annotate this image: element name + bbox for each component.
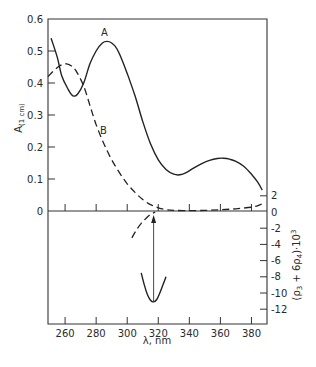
- curve-cd-dashed: [132, 212, 155, 238]
- curves: [48, 38, 265, 302]
- y-right-tick-label: -10: [271, 288, 287, 299]
- plot-border: [48, 19, 267, 324]
- arrow-head-icon: [151, 215, 156, 223]
- svg-text:A(1 cm): A(1 cm): [13, 103, 26, 133]
- x-tick-label: 340: [180, 328, 199, 339]
- y-right-tick-label: -6: [271, 255, 281, 266]
- x-tick-label: 360: [211, 328, 230, 339]
- y-right-label-part: )·10: [291, 234, 302, 254]
- x-tick-label: 280: [87, 328, 106, 339]
- x-tick-label: 300: [118, 328, 137, 339]
- annotations: [151, 215, 156, 301]
- y-left-tick-label: 0: [37, 206, 43, 217]
- curve-b-label: B: [100, 125, 107, 136]
- y-left-tick-label: 0.1: [27, 174, 43, 185]
- y-right-tick-label: -8: [271, 271, 281, 282]
- x-tick-label: 260: [56, 328, 75, 339]
- y-left-label-sub: (1 cm): [18, 103, 26, 126]
- y-right-tick-label: -12: [271, 304, 287, 315]
- y-right-tick-label: -4: [271, 239, 281, 250]
- y-right-label-part: (ρ: [291, 290, 302, 300]
- y-axis-right-label: (ρ3 + 6ρ4)·103: [290, 230, 304, 301]
- absorption-cd-chart: 00.10.20.30.40.50.620-2-4-6-8-10-1226028…: [0, 0, 316, 367]
- curve-a-label: A: [101, 27, 108, 38]
- y-right-label-sup: 3: [290, 230, 298, 234]
- x-axis-label: λ, nm: [143, 335, 171, 346]
- plot-frame: [48, 19, 267, 324]
- y-left-tick-label: 0.6: [27, 14, 43, 25]
- y-right-tick-label: 2: [271, 190, 277, 201]
- y-left-tick-label: 0.4: [27, 78, 43, 89]
- y-left-tick-label: 0.2: [27, 142, 43, 153]
- curve-b: [48, 64, 265, 211]
- y-right-tick-label: 0: [271, 207, 277, 218]
- axis-ticks: 00.10.20.30.40.50.620-2-4-6-8-10-1226028…: [27, 14, 287, 340]
- y-left-tick-label: 0.5: [27, 46, 43, 57]
- curve-a: [51, 38, 262, 190]
- y-left-tick-label: 0.3: [27, 110, 43, 121]
- y-axis-left-label: A(1 cm): [13, 103, 26, 133]
- svg-text:(ρ3 + 6ρ4)·103: (ρ3 + 6ρ4)·103: [290, 230, 304, 301]
- y-right-label-part: + 6ρ: [291, 258, 302, 285]
- x-tick-label: 380: [242, 328, 261, 339]
- y-right-tick-label: -2: [271, 223, 281, 234]
